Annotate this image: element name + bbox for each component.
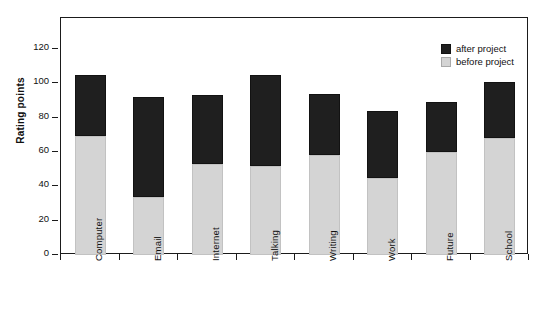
- x-axis-tick-mark: [411, 254, 412, 260]
- y-axis-tick-label: 0: [44, 247, 49, 258]
- bar-segment-after-project: [250, 75, 281, 166]
- legend-label-before-project: before project: [456, 56, 514, 67]
- bar-school: [484, 82, 515, 255]
- y-axis-tick-label: 120: [33, 41, 49, 52]
- x-axis-tick-mark: [528, 254, 529, 260]
- x-axis-label-email: Email: [152, 236, 163, 261]
- y-axis-tick-mark: [52, 220, 58, 221]
- stacked-bar-chart: Rating points 020406080100120 after proj…: [0, 0, 545, 315]
- bar-segment-after-project: [192, 95, 223, 164]
- bar-work: [367, 111, 398, 255]
- x-axis-tick-mark: [236, 254, 237, 260]
- x-axis-label-future: Future: [444, 232, 455, 261]
- bar-talking: [250, 75, 281, 255]
- plot-area: after project before project: [60, 17, 528, 254]
- x-axis-label-computer: Computer: [93, 218, 104, 261]
- y-axis-tick-label: 20: [38, 213, 49, 224]
- chart-legend: after project before project: [437, 40, 519, 70]
- y-axis-tick-label: 80: [38, 110, 49, 121]
- gray-swatch-icon: [441, 57, 451, 67]
- x-axis-label-internet: Internet: [210, 227, 221, 261]
- y-axis-tick-mark: [52, 185, 58, 186]
- y-axis-tick-mark: [52, 117, 58, 118]
- y-axis-tick-label: 100: [33, 75, 49, 86]
- x-axis-tick-mark: [119, 254, 120, 260]
- legend-item-after-project: after project: [441, 43, 514, 54]
- bar-segment-after-project: [484, 82, 515, 139]
- bar-email: [133, 97, 164, 255]
- bar-segment-after-project: [75, 75, 106, 137]
- legend-label-after-project: after project: [456, 43, 506, 54]
- x-axis-tick-mark: [60, 254, 61, 260]
- x-axis-tick-mark: [294, 254, 295, 260]
- black-swatch-icon: [441, 44, 451, 54]
- y-axis-tick-label: 40: [38, 178, 49, 189]
- x-axis-tick-mark: [177, 254, 178, 260]
- y-axis-tick-mark: [52, 254, 58, 255]
- bar-segment-after-project: [367, 111, 398, 178]
- bar-segment-after-project: [426, 102, 457, 152]
- x-axis-label-work: Work: [386, 238, 397, 261]
- bar-segment-after-project: [133, 97, 164, 197]
- x-axis-tick-mark: [470, 254, 471, 260]
- y-axis-title: Rating points: [15, 51, 26, 171]
- y-axis-tick-label: 60: [38, 144, 49, 155]
- legend-item-before-project: before project: [441, 56, 514, 67]
- bar-segment-after-project: [309, 94, 340, 156]
- y-axis-tick-mark: [52, 151, 58, 152]
- y-axis-tick-mark: [52, 48, 58, 49]
- x-axis-tick-mark: [353, 254, 354, 260]
- y-axis-tick-mark: [52, 82, 58, 83]
- x-axis-label-school: School: [503, 231, 514, 261]
- x-axis-label-writing: Writing: [327, 230, 338, 261]
- x-axis-label-talking: Talking: [269, 230, 280, 261]
